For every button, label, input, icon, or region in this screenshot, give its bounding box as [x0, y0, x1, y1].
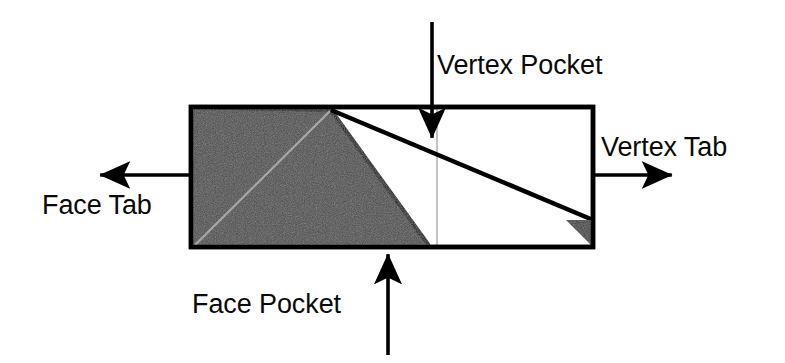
label-vertex-tab: Vertex Tab: [601, 134, 727, 161]
face-pocket-shaded-region: [191, 107, 430, 247]
label-face-pocket: Face Pocket: [192, 291, 341, 318]
label-vertex-pocket: Vertex Pocket: [437, 52, 602, 79]
figure-canvas: Vertex Pocket Vertex Tab Face Tab Face P…: [0, 0, 785, 363]
vertex-tab-corner-region: [566, 220, 593, 247]
label-face-tab: Face Tab: [42, 192, 152, 219]
diagram-svg: [0, 0, 785, 363]
